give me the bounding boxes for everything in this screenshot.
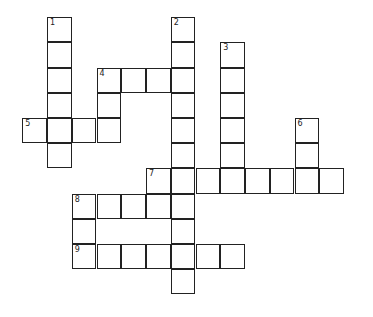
crossword-cell[interactable]	[146, 194, 171, 219]
clue-number: 2	[174, 19, 179, 27]
crossword-cell[interactable]	[220, 118, 245, 143]
crossword-cell[interactable]	[295, 168, 320, 193]
clue-number: 5	[25, 120, 30, 128]
crossword-cell[interactable]	[47, 118, 72, 143]
crossword-cell[interactable]	[146, 68, 171, 93]
crossword-cell[interactable]: 6	[295, 118, 320, 143]
crossword-grid: 123456789	[0, 0, 373, 317]
crossword-cell[interactable]	[220, 93, 245, 118]
crossword-cell[interactable]	[47, 143, 72, 168]
crossword-cell[interactable]: 2	[171, 17, 196, 42]
clue-number: 4	[100, 70, 105, 78]
crossword-cell[interactable]	[245, 168, 270, 193]
crossword-cell[interactable]	[171, 269, 196, 294]
crossword-cell[interactable]	[196, 244, 221, 269]
crossword-cell[interactable]	[72, 118, 97, 143]
clue-number: 6	[298, 120, 303, 128]
crossword-cell[interactable]: 8	[72, 194, 97, 219]
crossword-cell[interactable]	[171, 93, 196, 118]
crossword-cell[interactable]	[171, 194, 196, 219]
crossword-cell[interactable]	[171, 219, 196, 244]
crossword-cell[interactable]	[121, 68, 146, 93]
crossword-cell[interactable]	[47, 93, 72, 118]
crossword-cell[interactable]	[171, 68, 196, 93]
crossword-cell[interactable]	[97, 194, 122, 219]
crossword-cell[interactable]: 7	[146, 168, 171, 193]
crossword-cell[interactable]	[97, 118, 122, 143]
crossword-cell[interactable]	[97, 93, 122, 118]
crossword-cell[interactable]	[97, 244, 122, 269]
crossword-cell[interactable]: 3	[220, 42, 245, 67]
clue-number: 9	[75, 246, 80, 254]
crossword-cell[interactable]	[196, 168, 221, 193]
crossword-cell[interactable]	[121, 244, 146, 269]
crossword-cell[interactable]	[47, 68, 72, 93]
crossword-cell[interactable]	[220, 143, 245, 168]
crossword-cell[interactable]: 9	[72, 244, 97, 269]
clue-number: 3	[223, 44, 228, 52]
crossword-cell[interactable]	[171, 168, 196, 193]
crossword-cell[interactable]	[171, 42, 196, 67]
crossword-cell[interactable]	[146, 244, 171, 269]
crossword-cell[interactable]	[220, 244, 245, 269]
crossword-cell[interactable]	[220, 68, 245, 93]
crossword-cell[interactable]	[72, 219, 97, 244]
crossword-cell[interactable]	[270, 168, 295, 193]
crossword-cell[interactable]	[171, 244, 196, 269]
crossword-cell[interactable]	[319, 168, 344, 193]
clue-number: 1	[50, 19, 55, 27]
clue-number: 8	[75, 196, 80, 204]
crossword-cell[interactable]	[121, 194, 146, 219]
crossword-cell[interactable]: 4	[97, 68, 122, 93]
crossword-cell[interactable]	[171, 143, 196, 168]
crossword-cell[interactable]	[47, 42, 72, 67]
crossword-cell[interactable]	[220, 168, 245, 193]
crossword-cell[interactable]	[295, 143, 320, 168]
crossword-cell[interactable]	[171, 118, 196, 143]
crossword-cell[interactable]: 1	[47, 17, 72, 42]
clue-number: 7	[149, 170, 154, 178]
crossword-cell[interactable]: 5	[22, 118, 47, 143]
